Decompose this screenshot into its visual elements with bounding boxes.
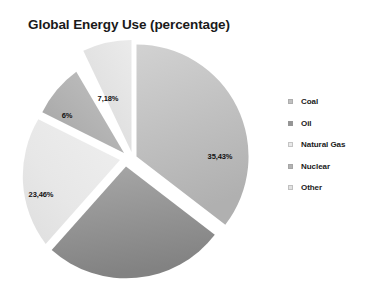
pie-chart-figure: Global Energy Use (percentage) [0, 0, 373, 283]
slice-label-other: 7,18% [98, 94, 119, 103]
chart-title: Global Energy Use (percentage) [0, 17, 258, 32]
slice-label-coal: 35,43% [208, 152, 233, 161]
legend-swatch-icon-oil [288, 121, 293, 126]
legend-item-coal[interactable]: Coal [288, 97, 345, 106]
legend-swatch-icon-nuclear [288, 164, 293, 169]
legend-label-coal: Coal [301, 97, 318, 106]
legend-swatch-icon-coal [288, 99, 293, 104]
legend-label-oil: Oil [301, 119, 312, 128]
legend-label-nuclear: Nuclear [301, 162, 330, 171]
legend-label-natural-gas: Natural Gas [301, 140, 345, 149]
chart-legend: Coal Oil Natural Gas Nuclear Other [288, 97, 345, 192]
legend-item-oil[interactable]: Oil [288, 119, 345, 128]
legend-item-nuclear[interactable]: Nuclear [288, 162, 345, 171]
pie-plot-area: 35,43% 28,15% 23,46% 6% 7,18% [2, 36, 258, 281]
slice-label-nuclear: 6% [62, 111, 73, 120]
legend-item-natural-gas[interactable]: Natural Gas [288, 140, 345, 149]
legend-swatch-icon-natural-gas [288, 142, 293, 147]
legend-label-other: Other [301, 183, 322, 192]
legend-item-other[interactable]: Other [288, 183, 345, 192]
slice-label-natural-gas: 23,46% [29, 190, 54, 199]
legend-swatch-icon-other [288, 185, 293, 190]
